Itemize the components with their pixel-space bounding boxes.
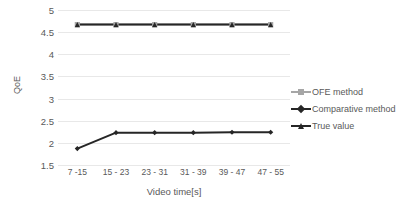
legend-key-marker: [298, 89, 304, 95]
legend-item[interactable]: Comparative method: [291, 101, 415, 117]
x-axis-tick-label: 7 -15: [68, 167, 87, 177]
plot-area: [58, 10, 290, 165]
legend-marker-icon: [291, 120, 311, 132]
legend-key-marker: [298, 123, 304, 129]
legend-marker-icon: [291, 103, 311, 115]
data-point-marker: [229, 130, 234, 135]
data-point-marker: [191, 130, 196, 135]
legend-item[interactable]: True value: [291, 118, 415, 134]
x-axis-tick-label: 47 - 55: [257, 167, 283, 177]
x-axis-title: Video time[s]: [58, 186, 290, 197]
gridline: [58, 165, 290, 166]
legend-key-marker: [297, 105, 305, 113]
legend-item[interactable]: OFE method: [291, 84, 415, 100]
data-point-marker: [152, 130, 157, 135]
y-axis-tick-label: 3: [49, 93, 54, 104]
data-point-marker: [268, 130, 273, 135]
y-axis-tick-label: 4: [49, 49, 54, 60]
y-axis-tick-labels: 1.522.533.544.55: [22, 10, 54, 165]
series-lines: [58, 10, 290, 165]
legend-marker-icon: [291, 86, 311, 98]
legend-item-label: Comparative method: [312, 104, 396, 114]
y-axis-tick-label: 1.5: [41, 160, 54, 171]
x-axis-tick-label: 31 - 39: [180, 167, 206, 177]
y-axis-tick-label: 5: [49, 5, 54, 16]
x-axis-tick-labels: 7 -1515 - 2323 - 3131 - 3939 - 4747 - 55: [58, 167, 290, 183]
y-axis-title-text: QoE: [12, 76, 22, 94]
x-axis-tick-label: 39 - 47: [219, 167, 245, 177]
qoe-line-chart: QoE 1.522.533.544.55 7 -1515 - 2323 - 31…: [0, 0, 415, 213]
chart-legend: OFE methodComparative methodTrue value: [291, 84, 415, 135]
legend-item-label: True value: [312, 121, 354, 131]
x-axis-tick-label: 15 - 23: [103, 167, 129, 177]
y-axis-tick-label: 2.5: [41, 115, 54, 126]
y-axis-tick-label: 2: [49, 137, 54, 148]
y-axis-tick-label: 3.5: [41, 71, 54, 82]
x-axis-tick-label: 23 - 31: [141, 167, 167, 177]
y-axis-tick-label: 4.5: [41, 27, 54, 38]
series-line: [77, 132, 270, 148]
legend-item-label: OFE method: [312, 87, 363, 97]
